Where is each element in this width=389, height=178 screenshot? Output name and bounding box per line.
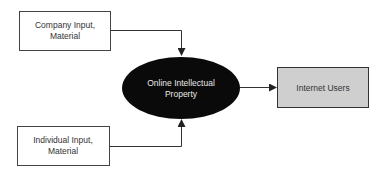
internet-users-node: Internet Users (278, 68, 369, 108)
company-to-center-arrow (111, 31, 182, 56)
company-input-label-1: Company Input, (35, 20, 95, 30)
flow-diagram: Company Input, Material Individual Input… (0, 0, 389, 178)
online-ip-label-2: Property (165, 89, 198, 99)
online-ip-node: Online Intellectual Property (122, 57, 240, 119)
individual-input-node: Individual Input, Material (18, 127, 110, 166)
online-ip-label-1: Online Intellectual (147, 78, 215, 88)
company-input-node: Company Input, Material (20, 12, 111, 51)
individual-input-label-1: Individual Input, (33, 135, 93, 145)
individual-input-label-2: Material (48, 146, 78, 156)
internet-users-label: Internet Users (296, 83, 349, 93)
company-input-label-2: Material (50, 31, 80, 41)
individual-to-center-arrow (110, 120, 182, 147)
